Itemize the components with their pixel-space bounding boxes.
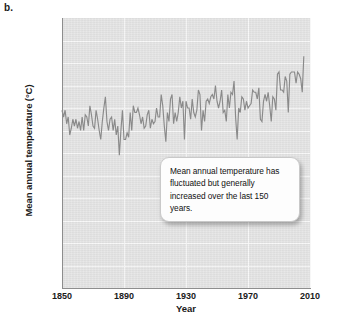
x-axis-line xyxy=(62,288,311,289)
temperature-line-series xyxy=(62,18,310,288)
callout-annotation: Mean annual temperature has fluctuated b… xyxy=(160,157,300,222)
x-tick-label: 1930 xyxy=(161,291,211,301)
gridline-vertical xyxy=(310,18,311,288)
x-axis-title: Year xyxy=(62,303,310,314)
x-tick-label: 2010 xyxy=(285,291,335,301)
callout-text: Mean annual temperature has fluctuated b… xyxy=(170,165,290,214)
plot-area xyxy=(62,18,310,288)
y-axis-title: Mean annual temperature (°C) xyxy=(23,36,34,266)
x-tick-label: 1970 xyxy=(223,291,273,301)
panel-label: b. xyxy=(4,2,13,13)
x-tick-label: 1850 xyxy=(37,291,87,301)
y-axis-line xyxy=(62,18,63,289)
x-tick-label: 1890 xyxy=(99,291,149,301)
figure-root: b. Mean annual temperature (°C) 0.01.02.… xyxy=(0,0,338,321)
